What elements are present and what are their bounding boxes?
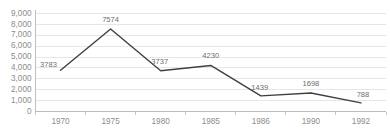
y-axis-tick-label: 9,000 [11,9,32,18]
data-point-label: 1439 [251,83,268,92]
line-chart: 01,0002,0003,0004,0005,0006,0007,0008,00… [0,0,390,134]
y-axis-tick-label: 1,000 [11,96,32,105]
x-axis-tick-label: 1970 [51,117,70,126]
y-axis-tick-label: 3,000 [11,74,32,83]
x-axis-tick-label: 1986 [252,117,271,126]
data-point-label: 7574 [102,15,119,24]
y-axis-tick-label: 0 [27,107,32,116]
data-point-label: 3783 [40,60,57,69]
data-point-label: 3737 [151,57,168,66]
y-axis-tick-label: 5,000 [11,52,32,61]
y-axis-tick-labels: 01,0002,0003,0004,0005,0006,0007,0008,00… [11,9,32,116]
data-point-label: 788 [357,90,370,99]
y-axis-tick-label: 2,000 [11,85,32,94]
x-axis-tick-label: 1990 [302,117,321,126]
x-axis-tick-label: 1975 [101,117,120,126]
data-line-series [61,29,361,103]
x-axis-tick-label: 1992 [352,117,371,126]
y-axis-tick-label: 7,000 [11,30,32,39]
chart-canvas: 01,0002,0003,0004,0005,0006,0007,0008,00… [0,0,390,134]
data-point-label: 4230 [202,51,219,60]
y-axis-tick-label: 6,000 [11,41,32,50]
x-axis-tick-label: 1980 [152,117,171,126]
x-axis-tick-marks [36,112,387,116]
data-point-label: 1698 [302,79,319,88]
y-axis-tick-label: 8,000 [11,20,32,29]
y-axis-tick-label: 4,000 [11,63,32,72]
x-axis-tick-labels: 1970197519801985198619901992 [51,117,370,126]
x-axis-tick-label: 1985 [202,117,221,126]
